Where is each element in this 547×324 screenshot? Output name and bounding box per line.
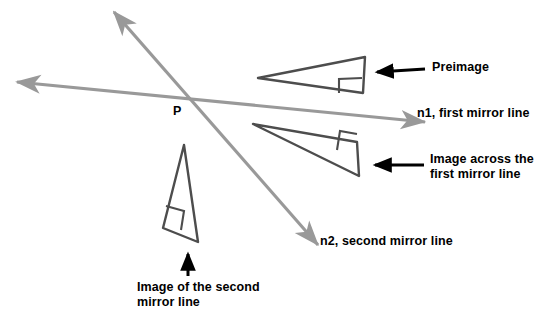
triangle-preimage — [258, 57, 365, 93]
triangle-image-across-first-mirror-line — [253, 124, 359, 176]
label-image-of-second-mirror-line: Image of the second mirror line — [137, 280, 260, 310]
point-label-p: P — [173, 104, 181, 119]
label-preimage: Preimage — [432, 60, 489, 75]
label-image-across-first-mirror-line: Image across the first mirror line — [430, 152, 534, 182]
label-mirror-line-n2: n2, second mirror line — [320, 234, 453, 249]
geometry-diagram: P Preimage n1, first mirror line Image a… — [0, 0, 547, 324]
label-mirror-line-n1: n1, first mirror line — [417, 106, 530, 121]
pointer-arrow-preimage — [377, 69, 425, 72]
triangle-preimage-outline — [258, 57, 365, 93]
mirror-line-n2 — [114, 12, 318, 245]
triangle-image-of-second-mirror-line — [163, 145, 198, 242]
